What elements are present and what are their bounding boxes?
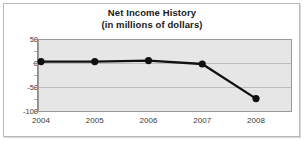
chart-title: Net Income History [0,7,304,19]
chart-subtitle: (in millions of dollars) [0,19,304,31]
x-tick-label-2004: 2004 [21,116,61,125]
gridline-0 [39,63,291,64]
chart-figure: Net Income History (in millions of dolla… [0,0,304,141]
y-tick-label-neg50: -50 [0,84,38,92]
y-tick-label-neg100: -100 [0,108,38,116]
y-tick-major-neg50 [33,87,37,88]
x-tick-label-2007: 2007 [182,116,222,125]
x-tick-label-2005: 2005 [75,116,115,125]
y-tick-minor-neg25 [34,75,37,76]
y-tick-label-0: 0 [0,60,38,68]
chart-title-block: Net Income History (in millions of dolla… [0,7,304,31]
y-tick-minor-25 [34,51,37,52]
y-tick-major-0 [33,63,37,64]
y-tick-major-50 [33,39,37,40]
y-tick-major-neg100 [33,111,37,112]
y-tick-minor-neg75 [34,99,37,100]
x-tick-label-2006: 2006 [129,116,169,125]
gridline-neg50 [39,87,291,88]
plot-inner [39,40,291,111]
x-tick-label-2008: 2008 [236,116,276,125]
plot-area [38,39,292,112]
y-tick-label-50: 50 [0,36,38,44]
